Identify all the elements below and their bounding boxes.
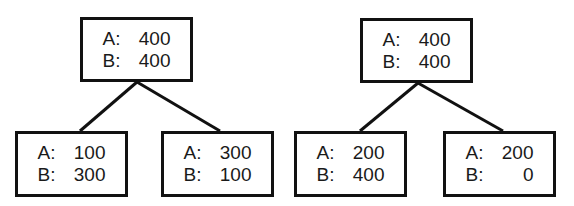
- value-a-row: A:400: [103, 28, 171, 50]
- value-a: 200: [502, 142, 534, 164]
- tree1-left-node: A:100 B:300: [15, 131, 128, 197]
- label-b: B:: [103, 50, 121, 72]
- value-a-row: A:400: [383, 29, 451, 51]
- label-a: A:: [184, 142, 202, 164]
- value-a: 300: [220, 142, 252, 164]
- label-a: A:: [466, 142, 484, 164]
- value-a-row: A:200: [317, 142, 385, 164]
- value-b-row: B:300: [38, 164, 106, 186]
- label-a: A:: [103, 28, 121, 50]
- tree2-root-node: A:400 B:400: [360, 18, 473, 83]
- label-b: B:: [184, 164, 202, 186]
- value-b: 0: [523, 164, 534, 186]
- value-b-row: B:100: [184, 164, 252, 186]
- tree2-right-node: A:200 B:0: [443, 131, 556, 197]
- value-a: 100: [74, 142, 106, 164]
- value-a: 400: [419, 29, 451, 51]
- value-a: 200: [353, 142, 385, 164]
- value-a: 400: [139, 28, 171, 50]
- value-b: 400: [353, 164, 385, 186]
- label-b: B:: [466, 164, 484, 186]
- value-b: 100: [220, 164, 252, 186]
- label-b: B:: [38, 164, 56, 186]
- edge-tree1-right: [137, 82, 220, 131]
- edge-tree2-right: [418, 83, 503, 131]
- tree2-left-node: A:200 B:400: [294, 131, 407, 197]
- value-a-row: A:100: [38, 142, 106, 164]
- value-b: 300: [74, 164, 106, 186]
- label-a: A:: [383, 29, 401, 51]
- edge-tree2-left: [360, 83, 418, 131]
- label-a: A:: [317, 142, 335, 164]
- value-a-row: A:200: [466, 142, 534, 164]
- value-b-row: B:400: [383, 51, 451, 73]
- value-b-row: B:400: [103, 50, 171, 72]
- edge-tree1-left: [80, 82, 137, 131]
- value-b-row: B:0: [466, 164, 534, 186]
- value-a-row: A:300: [184, 142, 252, 164]
- value-b: 400: [139, 50, 171, 72]
- tree1-right-node: A:300 B:100: [161, 131, 274, 197]
- label-b: B:: [317, 164, 335, 186]
- tree1-root-node: A:400 B:400: [80, 17, 193, 82]
- value-b: 400: [419, 51, 451, 73]
- label-a: A:: [38, 142, 56, 164]
- label-b: B:: [383, 51, 401, 73]
- value-b-row: B:400: [317, 164, 385, 186]
